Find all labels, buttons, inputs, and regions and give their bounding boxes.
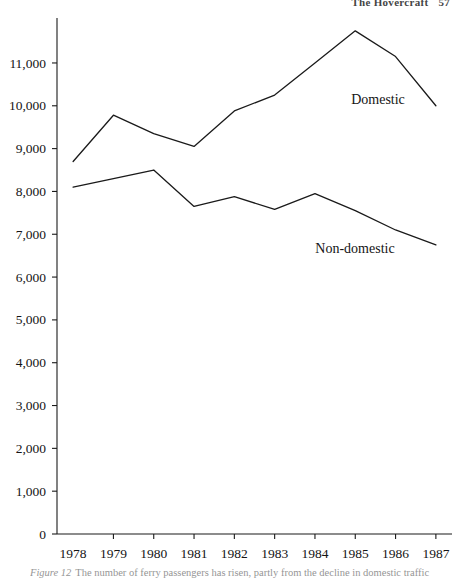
series-line-non-domestic	[73, 170, 436, 245]
y-axis-tick-label: 10,000	[9, 98, 46, 113]
y-axis-tick-label: 11,000	[9, 56, 46, 71]
x-axis-tick-label: 1987	[422, 546, 449, 561]
y-axis-tick-label: 2,000	[16, 441, 47, 456]
y-axis-tick-label: 7,000	[16, 227, 47, 242]
series-label-non-domestic: Non-domestic	[315, 241, 394, 256]
x-axis-tick-label: 1982	[221, 546, 248, 561]
x-axis-tick-label: 1979	[100, 546, 127, 561]
y-axis-tick-label: 5,000	[16, 312, 47, 327]
line-chart-figure: 01,0002,0003,0004,0005,0006,0007,0008,00…	[0, 0, 464, 578]
y-axis-ticks: 01,0002,0003,0004,0005,0006,0007,0008,00…	[9, 56, 57, 542]
x-axis-tick-label: 1983	[261, 546, 288, 561]
x-axis-tick-label: 1986	[382, 546, 409, 561]
figure-caption-text: The number of ferry passengers has risen…	[75, 567, 429, 578]
y-axis-tick-label: 4,000	[16, 355, 47, 370]
x-axis-tick-label: 1980	[140, 546, 167, 561]
y-axis-tick-label: 3,000	[16, 398, 47, 413]
y-axis-tick-label: 1,000	[16, 484, 47, 499]
y-axis-tick-label: 8,000	[16, 184, 47, 199]
figure-caption: Figure 12The number of ferry passengers …	[30, 566, 446, 578]
x-axis-tick-label: 1985	[342, 546, 369, 561]
x-axis-tick-label: 1981	[181, 546, 208, 561]
x-axis-ticks: 1978197919801981198219831984198519861987	[60, 534, 450, 561]
x-axis-tick-label: 1984	[301, 546, 328, 561]
series-label-domestic: Domestic	[351, 92, 405, 107]
y-axis-tick-label: 9,000	[16, 141, 47, 156]
chart-series-layer	[73, 31, 436, 245]
chart-series-labels: DomesticNon-domestic	[315, 92, 404, 256]
y-axis-tick-label: 0	[39, 527, 46, 542]
figure-caption-number: Figure 12	[30, 567, 71, 578]
chart-plot-area: 01,0002,0003,0004,0005,0006,0007,0008,00…	[0, 0, 464, 578]
y-axis-tick-label: 6,000	[16, 270, 47, 285]
x-axis-tick-label: 1978	[60, 546, 87, 561]
